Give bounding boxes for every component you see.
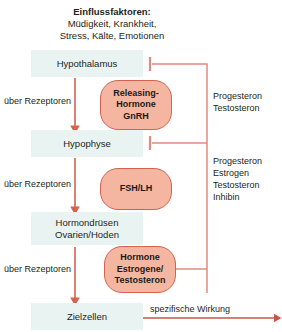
influencing-factors-heading: Einflussfaktoren: bbox=[12, 6, 212, 18]
node-zielzellen[interactable]: Zielzellen bbox=[31, 303, 143, 330]
feedback-label-bottom: Progesteron Estrogen Testosteron Inhibin bbox=[213, 155, 262, 203]
node-sex-hormones[interactable]: Hormone Estrogene/ Testosteron bbox=[104, 246, 176, 293]
node-zielzellen-label: Zielzellen bbox=[67, 311, 107, 323]
node-sex-hormones-line1: Hormone bbox=[120, 252, 160, 264]
specific-effect-label: spezifische Wirkung bbox=[150, 303, 230, 315]
node-hormondruesen-line1: Hormondrüsen bbox=[56, 217, 119, 229]
node-gnrh-line1: Releasing- bbox=[113, 88, 159, 100]
influencing-factors-block: Einflussfaktoren: Müdigkeit, Krankheit, … bbox=[12, 6, 212, 42]
influencing-factors-line1: Müdigkeit, Krankheit, bbox=[12, 18, 212, 30]
node-hypothalamus[interactable]: Hypothalamus bbox=[31, 50, 143, 77]
node-sex-hormones-line2: Estrogene/ bbox=[117, 264, 164, 276]
hormone-feedback-diagram: Einflussfaktoren: Müdigkeit, Krankheit, … bbox=[0, 0, 282, 332]
node-hypothalamus-label: Hypothalamus bbox=[57, 58, 118, 70]
node-hormondruesen[interactable]: Hormondrüsen Ovarien/Hoden bbox=[31, 212, 143, 245]
node-sex-hormones-line3: Testosteron bbox=[115, 275, 166, 287]
node-fsh-lh-label: FSH/LH bbox=[120, 183, 153, 195]
influencing-factors-line2: Stress, Kälte, Emotionen bbox=[12, 30, 212, 42]
node-hypophyse[interactable]: Hypophyse bbox=[31, 130, 143, 157]
node-hormondruesen-line2: Ovarien/Hoden bbox=[55, 229, 119, 241]
node-gnrh[interactable]: Releasing- Hormone GnRH bbox=[100, 80, 172, 130]
receptor-label-1: über Rezeptoren bbox=[4, 95, 71, 107]
node-hypophyse-label: Hypophyse bbox=[63, 138, 111, 150]
node-fsh-lh[interactable]: FSH/LH bbox=[100, 168, 172, 210]
receptor-label-2: über Rezeptoren bbox=[4, 178, 71, 190]
feedback-label-top: Progesteron Testosteron bbox=[213, 90, 262, 114]
receptor-label-3: über Rezeptoren bbox=[4, 263, 71, 275]
node-gnrh-line3: GnRH bbox=[123, 111, 149, 123]
node-gnrh-line2: Hormone bbox=[116, 99, 156, 111]
